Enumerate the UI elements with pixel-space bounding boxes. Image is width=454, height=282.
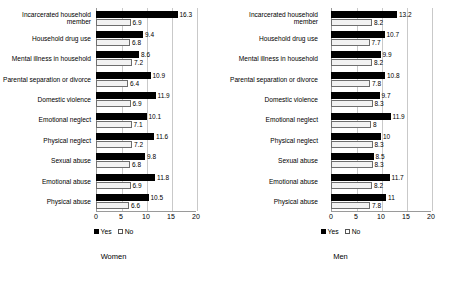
bar-row: 8.2 xyxy=(331,182,431,189)
category-label: Emotional abuse xyxy=(0,172,94,191)
category-label: Physical neglect xyxy=(227,131,321,150)
category-label: Sexual abuse xyxy=(227,152,321,171)
category-label: Sexual abuse xyxy=(0,152,94,171)
bar-value-no: 6.8 xyxy=(132,161,141,168)
bar-group: 8.67.2 xyxy=(96,50,196,69)
bar-value-no: 8.3 xyxy=(375,141,384,148)
bar-value-yes: 9.9 xyxy=(383,51,392,58)
legend-item-yes[interactable]: Yes xyxy=(321,228,339,235)
bar-yes xyxy=(331,153,374,160)
bar-row: 11.8 xyxy=(96,174,196,181)
bar-no xyxy=(331,100,373,107)
bar-row: 13.2 xyxy=(331,11,431,18)
bar-row: 10.9 xyxy=(96,72,196,79)
bar-row: 10.1 xyxy=(96,113,196,120)
bar-value-yes: 11.9 xyxy=(158,92,170,99)
value-axis: 05101520 xyxy=(96,213,196,225)
bar-row: 8.3 xyxy=(331,141,431,148)
legend-label: Yes xyxy=(101,228,112,235)
axis-tick-label: 10 xyxy=(142,213,150,220)
bar-row: 7.8 xyxy=(331,202,431,209)
category-label: Emotional abuse xyxy=(227,172,321,191)
bar-group: 108.3 xyxy=(331,131,431,150)
bar-value-no: 6.6 xyxy=(131,202,140,209)
axis-tick-label: 15 xyxy=(402,213,410,220)
axis-tick-label: 5 xyxy=(119,213,123,220)
bar-value-yes: 10.7 xyxy=(387,31,400,38)
legend-swatch-yes xyxy=(94,229,99,234)
bar-value-yes: 8.5 xyxy=(376,153,385,160)
bar-yes xyxy=(96,133,154,140)
legend-swatch-no xyxy=(118,229,123,234)
bar-no xyxy=(331,59,372,66)
axis-tick-label: 15 xyxy=(167,213,175,220)
bar-row: 6.8 xyxy=(96,39,196,46)
bar-yes xyxy=(96,72,151,79)
bar-yes xyxy=(96,31,143,38)
bar-row: 10 xyxy=(331,133,431,140)
chart-panel-men: Incarcerated household memberHousehold d… xyxy=(227,0,454,282)
bar-value-no: 8 xyxy=(373,121,377,128)
bar-row: 8.3 xyxy=(331,100,431,107)
category-label: Physical abuse xyxy=(0,192,94,211)
bar-yes xyxy=(331,133,381,140)
bar-group: 16.36.9 xyxy=(96,9,196,28)
bar-group: 13.28.2 xyxy=(331,9,431,28)
bar-no xyxy=(96,80,128,87)
bar-row: 6.8 xyxy=(96,161,196,168)
category-label: Mental illness in household xyxy=(227,50,321,69)
bar-group: 10.56.6 xyxy=(96,192,196,211)
bar-no xyxy=(331,19,372,26)
bar-row: 11.9 xyxy=(96,92,196,99)
axis-tick-label: 20 xyxy=(427,213,435,220)
legend-item-yes[interactable]: Yes xyxy=(94,228,112,235)
category-label: Physical neglect xyxy=(0,131,94,150)
bar-no xyxy=(96,182,131,189)
bar-no xyxy=(96,121,132,128)
bar-group: 8.58.3 xyxy=(331,152,431,171)
bar-row: 11.6 xyxy=(96,133,196,140)
bar-group: 11.98 xyxy=(331,111,431,130)
bar-row: 10.8 xyxy=(331,72,431,79)
bar-no xyxy=(331,202,370,209)
category-axis: Incarcerated household memberHousehold d… xyxy=(0,8,94,212)
category-label: Household drug use xyxy=(0,29,94,48)
value-axis: 05101520 xyxy=(331,213,431,225)
legend-item-no[interactable]: No xyxy=(345,228,361,235)
bar-no xyxy=(96,39,130,46)
bar-yes xyxy=(331,174,390,181)
bar-yes xyxy=(331,72,385,79)
category-label: Incarcerated household member xyxy=(227,9,321,28)
bar-row: 8.2 xyxy=(331,19,431,26)
bar-value-yes: 10.5 xyxy=(151,194,164,201)
bar-value-no: 7.1 xyxy=(134,121,143,128)
category-label: Physical abuse xyxy=(227,192,321,211)
bar-value-no: 6.9 xyxy=(133,19,142,26)
bar-value-no: 8.2 xyxy=(374,19,383,26)
bar-row: 9.8 xyxy=(96,153,196,160)
legend-label: No xyxy=(352,228,361,235)
bar-value-yes: 8.6 xyxy=(141,51,150,58)
bar-row: 7.2 xyxy=(96,59,196,66)
bar-group: 11.78.2 xyxy=(331,172,431,191)
chart-title: Women xyxy=(0,252,227,261)
bar-row: 10.7 xyxy=(331,31,431,38)
bar-value-yes: 10.1 xyxy=(149,113,162,120)
bar-value-no: 7.8 xyxy=(372,80,381,87)
legend: YesNo xyxy=(0,228,227,235)
category-label: Incarcerated household member xyxy=(0,9,94,28)
bar-value-no: 7.2 xyxy=(134,59,143,66)
legend-item-no[interactable]: No xyxy=(118,228,134,235)
bar-group: 11.67.2 xyxy=(96,131,196,150)
category-label: Parental separation or divorce xyxy=(0,70,94,89)
bar-group: 117.8 xyxy=(331,192,431,211)
bar-row: 8 xyxy=(331,121,431,128)
bar-group: 9.98.2 xyxy=(331,50,431,69)
axis-tick-label: 0 xyxy=(329,213,333,220)
bar-value-no: 6.4 xyxy=(130,80,139,87)
axis-tick-label: 5 xyxy=(354,213,358,220)
bar-group: 11.96.9 xyxy=(96,91,196,110)
bar-value-yes: 9.7 xyxy=(382,92,391,99)
bar-row: 8.3 xyxy=(331,161,431,168)
bar-no xyxy=(96,100,131,107)
